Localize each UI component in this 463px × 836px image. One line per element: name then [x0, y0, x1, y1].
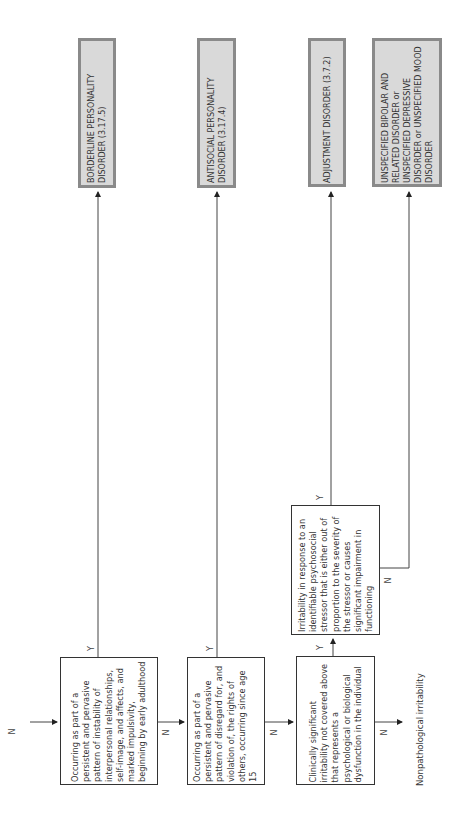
- decision-text: Irritability in response to an identifia…: [296, 508, 374, 632]
- outcome-antisocial: ANTISOCIAL PERSONALITY DISORDER (3.17.4): [197, 38, 236, 188]
- no-label: N: [380, 730, 389, 736]
- no-label: N: [8, 729, 17, 735]
- outcome-text: BORDERLINE PERSONALITY DISORDER (3.17.5): [86, 43, 108, 183]
- decision-box-antisocial: Occurring as part of a persistent and pe…: [187, 657, 265, 785]
- no-label: N: [162, 730, 171, 736]
- yes-label: Y: [87, 646, 96, 651]
- outcome-text: UNSPECIFIED BIPOLAR AND RELATED DISORDER…: [380, 43, 435, 183]
- decision-text: Occurring as part of a persistent and pe…: [70, 660, 148, 782]
- outcome-borderline: BORDERLINE PERSONALITY DISORDER (3.17.5): [78, 38, 116, 188]
- yes-label: Y: [316, 645, 325, 650]
- decision-box-stressor: Irritability in response to an identifia…: [291, 505, 380, 635]
- decision-box-borderline: Occurring as part of a persistent and pe…: [60, 657, 158, 785]
- yes-label: Y: [316, 495, 325, 500]
- no-label: N: [384, 578, 393, 584]
- terminal-nonpathological: Nonpathological irritability: [415, 673, 425, 786]
- no-label: N: [270, 730, 279, 736]
- decision-text: Occurring as part of a persistent and pe…: [192, 660, 259, 782]
- outcome-adjustment: ADJUSTMENT DISORDER (3.7.2): [308, 38, 346, 187]
- decision-text: Clinically significant irritability not …: [307, 659, 363, 782]
- outcome-text: ADJUSTMENT DISORDER (3.7.2): [322, 43, 333, 183]
- yes-label: Y: [206, 646, 215, 651]
- decision-box-clinical-irritability: Clinically significant irritability not …: [296, 656, 375, 785]
- outcome-unspecified-mood: UNSPECIFIED BIPOLAR AND RELATED DISORDER…: [372, 38, 442, 187]
- outcome-text: ANTISOCIAL PERSONALITY DISORDER (3.17.4): [206, 43, 228, 183]
